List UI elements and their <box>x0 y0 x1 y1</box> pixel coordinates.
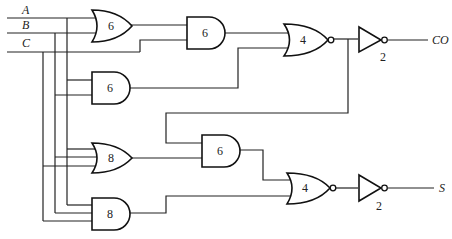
gate-label: 8 <box>107 207 113 221</box>
not-gate-2: 2 <box>359 175 387 213</box>
gate-label: 6 <box>107 81 113 95</box>
input-label-c: C <box>22 36 31 50</box>
or-gate-2: 8 <box>92 143 132 173</box>
nor-gate-2: 4 <box>287 173 336 204</box>
or-gate-1: 6 <box>92 10 132 42</box>
gate-label: 2 <box>380 50 386 64</box>
wire-and4-nor2 <box>130 196 291 213</box>
gate-label: 6 <box>202 26 208 40</box>
and-gate-2: 6 <box>92 72 130 104</box>
wire-and2-nor1 <box>130 48 289 88</box>
nor-gate-1: 4 <box>284 24 334 56</box>
gate-label: 4 <box>302 181 308 195</box>
wire-c-to-and1 <box>140 40 187 52</box>
input-label-b: B <box>22 18 30 32</box>
output-label-co: CO <box>432 33 449 47</box>
input-label-a: A <box>21 3 30 17</box>
wire-nor1-and3 <box>166 39 348 143</box>
gate-label: 4 <box>300 33 306 47</box>
gate-label: 2 <box>376 199 382 213</box>
not-gate-1: 2 <box>359 27 387 64</box>
gate-label: 8 <box>108 151 114 165</box>
output-label-s: S <box>439 181 445 195</box>
wire-and3-nor2 <box>240 150 291 180</box>
gate-label: 6 <box>108 19 114 33</box>
gate-label: 6 <box>217 144 223 158</box>
and-gate-1: 6 <box>187 17 225 49</box>
logic-circuit-diagram: A B C 6 6 <box>0 0 452 239</box>
and-gate-4: 8 <box>92 198 130 230</box>
and-gate-3: 6 <box>202 135 240 167</box>
